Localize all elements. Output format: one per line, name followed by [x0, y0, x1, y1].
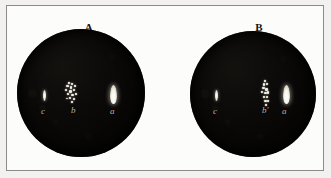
cluster-speck	[66, 85, 69, 87]
cluster-speck	[71, 83, 73, 85]
cluster-speck	[75, 93, 77, 95]
cluster-speck	[69, 97, 71, 99]
figure-b-spot-a	[283, 85, 290, 104]
cluster-speck	[66, 98, 68, 99]
cluster-speck	[71, 94, 74, 96]
figure-b-label-b-prime: b'	[262, 106, 268, 115]
cluster-speck	[68, 82, 70, 84]
figure-a-disk	[17, 29, 145, 157]
cluster-speck	[263, 83, 265, 86]
cluster-speck	[263, 96, 265, 98]
cluster-speck	[266, 96, 268, 98]
cluster-speck	[65, 89, 67, 91]
cluster-speck	[266, 83, 268, 85]
cluster-speck	[73, 89, 75, 91]
disk-a-grain	[17, 29, 145, 157]
figure-a-label-b: b	[71, 106, 76, 115]
cluster-speck	[267, 100, 269, 102]
figure-a-spot-a	[110, 85, 117, 104]
cluster-speck	[70, 86, 72, 89]
cluster-speck	[69, 90, 72, 93]
figure-b-spot-c	[215, 90, 218, 101]
figure-b-disk	[190, 31, 316, 157]
figure-a-label-a: a	[110, 107, 115, 116]
figure-b-label-c: c	[213, 107, 217, 116]
cluster-speck	[71, 101, 73, 103]
cluster-speck	[74, 85, 76, 87]
disk-b-grain	[190, 31, 316, 157]
cluster-speck	[264, 80, 266, 82]
illustration-plate: A B c b a c b' a	[0, 0, 331, 178]
figure-b-label-a: a	[282, 107, 287, 116]
cluster-speck	[73, 98, 75, 100]
cluster-speck	[67, 93, 69, 95]
figure-a-spot-c	[43, 90, 46, 101]
cluster-speck	[267, 91, 269, 94]
cluster-speck	[261, 91, 263, 93]
figure-a-label-c: c	[41, 107, 45, 116]
